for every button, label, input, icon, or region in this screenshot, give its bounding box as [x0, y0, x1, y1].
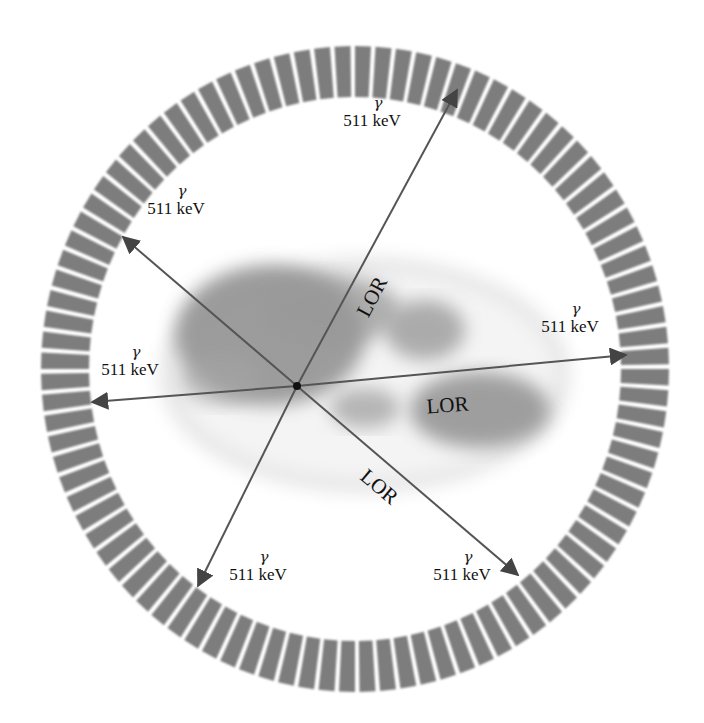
gamma-symbol: γ — [178, 182, 187, 200]
energy-label: 511 keV — [147, 199, 205, 218]
detector-crystal — [359, 640, 376, 692]
energy-label: 511 keV — [541, 317, 599, 336]
gamma-symbol: γ — [132, 343, 141, 361]
detector-crystal — [319, 639, 338, 691]
detector-crystal — [372, 47, 391, 99]
energy-label: 511 keV — [343, 111, 401, 130]
photon-label-p4: γ511 keV — [101, 343, 159, 379]
energy-label: 511 keV — [433, 565, 491, 584]
pet-diagram: γ511 keVγ511 keVγ511 keVγ511 keVγ511 keV… — [0, 0, 704, 723]
detector-crystal — [621, 369, 669, 385]
detector-crystal — [42, 391, 91, 411]
detector-crystal — [619, 327, 668, 347]
detector-crystal — [298, 637, 320, 690]
gamma-symbol: γ — [464, 548, 473, 566]
detector-crystal — [620, 348, 669, 365]
detector-crystal — [390, 49, 412, 102]
photon-label-p5: γ511 keV — [229, 548, 287, 584]
gamma-symbol: γ — [374, 94, 383, 112]
detector-crystal — [334, 46, 351, 98]
lor-label-2: LOR — [426, 392, 470, 419]
detector-crystal — [376, 639, 396, 691]
photon-label-p3: γ511 keV — [541, 300, 599, 336]
annihilation-point — [293, 382, 301, 390]
detector-crystal — [619, 387, 668, 407]
detector-crystal — [42, 331, 91, 351]
gamma-symbol: γ — [572, 300, 581, 318]
detector-crystal — [41, 353, 89, 369]
detector-crystal — [314, 47, 334, 99]
photon-label-p6: γ511 keV — [433, 548, 491, 584]
detector-crystal — [355, 46, 371, 97]
energy-label: 511 keV — [101, 360, 159, 379]
detector-crystal — [41, 373, 90, 390]
energy-label: 511 keV — [229, 565, 287, 584]
heart — [385, 300, 465, 360]
detector-crystal — [339, 641, 355, 692]
gamma-symbol: γ — [260, 548, 269, 566]
